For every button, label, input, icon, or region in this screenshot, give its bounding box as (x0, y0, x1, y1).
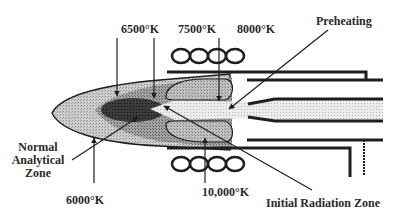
pointer-preheating (229, 30, 328, 109)
label-10000k: 10,000°K (202, 186, 249, 199)
label-6000k: 6000°K (66, 194, 104, 207)
load-coil-top (172, 49, 244, 63)
load-coil-bottom (172, 157, 244, 171)
label-initial-radiation-zone: Initial Radiation Zone (266, 197, 380, 210)
label-7500k: 7500°K (178, 23, 216, 36)
label-preheating: Preheating (316, 15, 372, 28)
intermediate-tube (247, 80, 383, 176)
label-6500k: 6500°K (121, 23, 159, 36)
label-8000k: 8000°K (237, 23, 275, 36)
label-normal-analytical-zone: Normal Analytical Zone (6, 141, 70, 181)
label-normal-line3: Zone (6, 167, 70, 180)
injector-fill (248, 100, 383, 120)
